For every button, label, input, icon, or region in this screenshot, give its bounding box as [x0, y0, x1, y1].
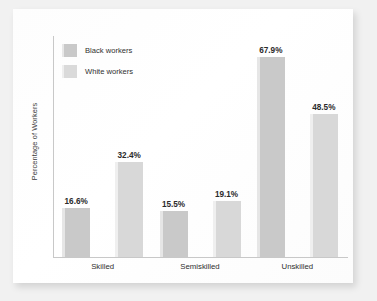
- chart-card: Percentage of Workers Black workers Whit…: [13, 9, 353, 283]
- bar-value-label: 67.9%: [259, 46, 282, 55]
- x-axis-label-unskilled: Unskilled: [282, 262, 314, 271]
- bar-value-label: 16.6%: [65, 197, 88, 206]
- bar-skilled-white: 32.4%: [115, 162, 143, 257]
- chart-page: Percentage of Workers Black workers Whit…: [0, 0, 377, 301]
- bar-value-label: 15.5%: [162, 200, 185, 209]
- bar-value-label: 48.5%: [312, 103, 335, 112]
- bar-value-label: 32.4%: [118, 151, 141, 160]
- bar-skilled-black: 16.6%: [62, 208, 90, 257]
- bar-unskilled-black: 67.9%: [257, 57, 285, 257]
- bar-value-label: 19.1%: [215, 190, 238, 199]
- bar-semiskilled-white: 19.1%: [213, 201, 241, 257]
- x-axis-label-skilled: Skilled: [91, 262, 114, 271]
- plot-area: Percentage of Workers Black workers Whit…: [13, 9, 353, 283]
- bar-unskilled-white: 48.5%: [310, 114, 338, 257]
- bars-layer: 16.6%32.4%15.5%19.1%67.9%48.5%: [13, 9, 353, 257]
- bar-semiskilled-black: 15.5%: [160, 211, 188, 257]
- x-axis-label-semiskilled: Semiskilled: [180, 262, 219, 271]
- x-axis-line: [53, 257, 348, 258]
